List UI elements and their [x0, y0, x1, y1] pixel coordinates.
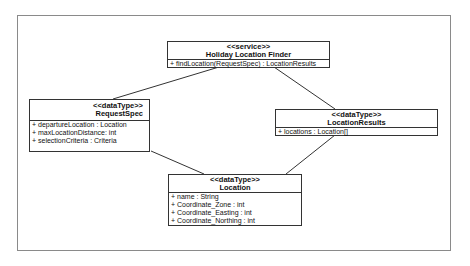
association-service-requestspec: [113, 67, 219, 99]
member-selection-criteria: + selectionCriteria : Criteria: [32, 137, 147, 145]
class-request-spec[interactable]: <<dataType>> RequestSpec + departureLoca…: [29, 99, 150, 152]
class-header: <<service>> Holiday Location Finder: [168, 42, 329, 60]
association-service-locationresults: [274, 67, 335, 109]
member-find-location: + findLocation(RequestSpec) : LocationRe…: [170, 60, 327, 68]
association-locationresults-location: [286, 135, 335, 174]
class-members: + locations : Location[]: [276, 128, 437, 136]
member-departure-location: + departureLocation : Location: [32, 121, 147, 129]
class-members: + findLocation(RequestSpec) : LocationRe…: [168, 60, 329, 68]
member-locations: + locations : Location[]: [278, 128, 435, 136]
member-coordinate-northing: + Coordinate_Northing : int: [171, 217, 299, 225]
association-requestspec-location: [151, 151, 204, 174]
class-name: LocationResults: [278, 119, 435, 127]
class-name: RequestSpec: [32, 110, 143, 118]
member-coordinate-easting: + Coordinate_Easting : int: [171, 209, 299, 217]
class-header: <<dataType>> Location: [169, 175, 301, 193]
class-location-results[interactable]: <<dataType>> LocationResults + locations…: [275, 109, 438, 136]
class-location[interactable]: <<dataType>> Location + name : String + …: [168, 174, 302, 226]
member-name: + name : String: [171, 193, 299, 201]
class-holiday-location-finder[interactable]: <<service>> Holiday Location Finder + fi…: [167, 41, 330, 68]
class-header: <<dataType>> RequestSpec: [30, 100, 149, 121]
member-max-location-distance: + maxLocationDistance: int: [32, 129, 147, 137]
class-header: <<dataType>> LocationResults: [276, 110, 437, 128]
class-members: + departureLocation : Location + maxLoca…: [30, 121, 149, 145]
class-name: Location: [171, 184, 299, 192]
member-coordinate-zone: + Coordinate_Zone : int: [171, 201, 299, 209]
class-name: Holiday Location Finder: [170, 51, 327, 59]
class-members: + name : String + Coordinate_Zone : int …: [169, 193, 301, 225]
